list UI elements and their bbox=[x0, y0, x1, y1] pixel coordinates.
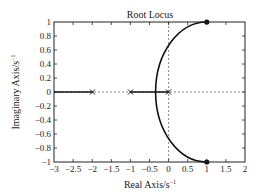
svg-text:1: 1 bbox=[205, 164, 210, 174]
svg-text:−1: −1 bbox=[41, 157, 51, 167]
svg-text:0.5: 0.5 bbox=[182, 164, 194, 174]
svg-text:0: 0 bbox=[47, 87, 52, 97]
chart-title: Root Locus bbox=[127, 9, 173, 20]
svg-text:0.4: 0.4 bbox=[40, 59, 52, 69]
svg-text:−1.5: −1.5 bbox=[103, 164, 120, 174]
y-axis-label: Imaginary Axis/s−1 bbox=[10, 55, 21, 130]
y-tick-labels: 1 0.8 0.6 0.4 0.2 0 −0.2 −0.4 −0.6 −0.8 … bbox=[35, 17, 52, 167]
svg-text:−0.6: −0.6 bbox=[35, 129, 52, 139]
x-axis-label: Real Axis/s−1 bbox=[124, 179, 176, 190]
upper-branch bbox=[156, 22, 207, 92]
svg-text:−0.4: −0.4 bbox=[35, 115, 52, 125]
svg-text:−0.2: −0.2 bbox=[35, 101, 51, 111]
svg-text:0: 0 bbox=[166, 164, 171, 174]
svg-text:−0.5: −0.5 bbox=[141, 164, 158, 174]
svg-text:0.8: 0.8 bbox=[40, 31, 52, 41]
lower-branch bbox=[156, 92, 207, 162]
svg-text:−2: −2 bbox=[87, 164, 97, 174]
svg-text:−1: −1 bbox=[126, 164, 136, 174]
svg-text:1: 1 bbox=[47, 17, 52, 27]
svg-text:1.5: 1.5 bbox=[220, 164, 232, 174]
svg-text:0.6: 0.6 bbox=[40, 45, 52, 55]
svg-text:0.2: 0.2 bbox=[40, 73, 51, 83]
svg-text:2: 2 bbox=[243, 164, 248, 174]
svg-text:−2.5: −2.5 bbox=[65, 164, 82, 174]
svg-text:−0.8: −0.8 bbox=[35, 143, 52, 153]
root-locus-chart: Root Locus bbox=[0, 0, 256, 194]
x-tick-labels: −3 −2.5 −2 −1.5 −1 −0.5 0 0.5 1 1.5 2 bbox=[49, 164, 247, 174]
